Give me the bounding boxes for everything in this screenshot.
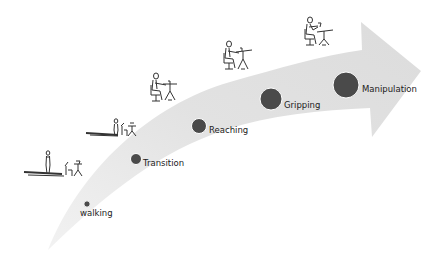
stage-label-manipulation: Manipulation <box>362 84 417 94</box>
walking-pictogram-icon <box>24 151 82 176</box>
stage-dot-walking <box>84 201 90 207</box>
transition-pictogram-icon <box>86 119 136 136</box>
stage-label-walking: walking <box>80 208 113 218</box>
stage-label-transition: Transition <box>142 158 184 168</box>
stage-label-reaching: Reaching <box>209 125 248 135</box>
stage-label-gripping: Gripping <box>284 100 320 110</box>
progression-diagram: walkingTransitionReachingGrippingManipul… <box>0 0 439 260</box>
stage-dot-gripping <box>260 88 282 110</box>
manipulation-pictogram-icon <box>305 17 333 45</box>
stage-dot-transition <box>131 154 142 165</box>
gripping-pictogram-icon <box>224 41 252 69</box>
stage-dot-manipulation <box>333 72 359 98</box>
stage-dot-reaching <box>192 119 207 134</box>
reaching-pictogram-icon <box>151 73 177 101</box>
